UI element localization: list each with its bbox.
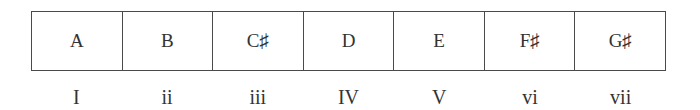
scale-degree-row: I ii iii IV V vi vii [31, 84, 666, 110]
degree-label-2: ii [122, 84, 213, 110]
note-cell-g-sharp: G♯ [575, 12, 665, 70]
note-cell-c-sharp: C♯ [213, 12, 304, 70]
degree-label-5: V [394, 84, 485, 110]
degree-label-1: I [31, 84, 122, 110]
note-cell-a: A [32, 12, 123, 70]
degree-label-6: vi [485, 84, 576, 110]
degree-label-4: IV [303, 84, 394, 110]
degree-label-3: iii [212, 84, 303, 110]
note-cell-e: E [394, 12, 485, 70]
scale-notes-table: A B C♯ D E F♯ G♯ [31, 11, 666, 71]
note-cell-f-sharp: F♯ [485, 12, 576, 70]
note-cell-b: B [123, 12, 214, 70]
note-cell-d: D [304, 12, 395, 70]
degree-label-7: vii [575, 84, 666, 110]
